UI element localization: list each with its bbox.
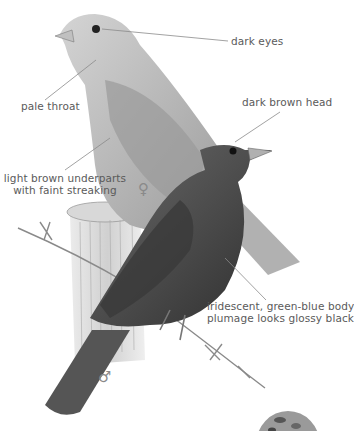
label-dark-brown-head: dark brown head [242, 96, 332, 108]
label-pale-throat: pale throat [21, 100, 80, 112]
female-symbol-icon: ♀ [138, 182, 149, 197]
label-body-line1: iridescent, green-blue body [207, 300, 354, 312]
label-underparts: light brown underparts with faint streak… [0, 172, 130, 196]
label-dark-eyes: dark eyes [231, 35, 283, 47]
label-body-plumage: iridescent, green-blue body plumage look… [207, 300, 354, 324]
male-symbol-icon: ♂ [98, 370, 111, 385]
label-underparts-line2: with faint streaking [0, 184, 130, 196]
egg [256, 411, 320, 431]
label-body-line2: plumage looks glossy black [207, 312, 354, 324]
label-underparts-line1: light brown underparts [0, 172, 130, 184]
